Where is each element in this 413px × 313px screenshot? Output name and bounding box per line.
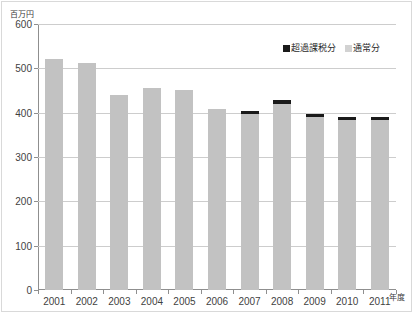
x-tick-mark xyxy=(168,290,169,294)
y-tick-label: 200 xyxy=(15,196,32,207)
x-tick-label: 2002 xyxy=(76,296,98,307)
bar-group xyxy=(208,109,226,290)
x-tick-label: 2005 xyxy=(173,296,195,307)
bar-segment-excess xyxy=(371,117,389,120)
legend-item: 超過課税分 xyxy=(283,44,336,53)
bar-segment-normal xyxy=(110,95,128,290)
bar-group xyxy=(371,117,389,290)
black-square-icon xyxy=(283,45,290,52)
bar-segment-excess xyxy=(273,100,291,104)
x-tick-mark xyxy=(136,290,137,294)
y-tick-label: 300 xyxy=(15,152,32,163)
bar-segment-normal xyxy=(241,114,259,290)
x-tick-mark xyxy=(331,290,332,294)
x-tick-label: 2007 xyxy=(238,296,260,307)
bar-chart: 百万円 6005004003002001000 2001200220032004… xyxy=(0,0,413,313)
x-tick-mark xyxy=(363,290,364,294)
bar-segment-normal xyxy=(45,59,63,290)
bar-group xyxy=(273,100,291,290)
bar-segment-normal xyxy=(78,63,96,290)
bar-group xyxy=(143,88,161,290)
bar-segment-normal xyxy=(143,88,161,290)
bar-group xyxy=(78,63,96,290)
bar-segment-normal xyxy=(371,120,389,290)
bar-segment-normal xyxy=(306,117,324,290)
bar-segment-normal xyxy=(208,109,226,290)
bar-segment-normal xyxy=(273,104,291,290)
x-tick-mark xyxy=(233,290,234,294)
y-axis-unit-label: 百万円 xyxy=(10,8,34,19)
x-tick-label: 2003 xyxy=(108,296,130,307)
gray-square-icon xyxy=(345,45,352,52)
bars-layer xyxy=(38,24,396,290)
y-tick-label: 600 xyxy=(15,19,32,30)
x-tick-mark xyxy=(201,290,202,294)
x-tick-mark xyxy=(38,290,39,294)
bar-segment-normal xyxy=(338,120,356,290)
bar-group xyxy=(338,117,356,290)
legend-label: 通常分 xyxy=(353,44,380,53)
x-tick-mark xyxy=(266,290,267,294)
x-tick-label: 2011 xyxy=(369,296,391,307)
legend-label: 超過課税分 xyxy=(291,44,336,53)
x-tick-mark xyxy=(103,290,104,294)
bar-group xyxy=(175,90,193,290)
bar-group xyxy=(241,111,259,290)
x-tick-label: 2009 xyxy=(304,296,326,307)
bar-group xyxy=(45,59,63,290)
y-tick-label: 500 xyxy=(15,63,32,74)
x-tick-mark xyxy=(298,290,299,294)
plot-area: 6005004003002001000 20012002200320042005… xyxy=(38,24,396,290)
legend-item: 通常分 xyxy=(345,44,380,53)
bar-segment-excess xyxy=(241,111,259,114)
x-tick-label: 2010 xyxy=(336,296,358,307)
x-tick-label: 2004 xyxy=(141,296,163,307)
x-tick-label: 2006 xyxy=(206,296,228,307)
bar-group xyxy=(110,95,128,290)
x-axis-title: 年度 xyxy=(389,291,405,302)
x-tick-label: 2008 xyxy=(271,296,293,307)
y-tick-label: 100 xyxy=(15,240,32,251)
bar-segment-normal xyxy=(175,90,193,290)
bar-segment-excess xyxy=(306,114,324,117)
x-tick-mark xyxy=(71,290,72,294)
x-tick-label: 2001 xyxy=(43,296,65,307)
bar-segment-excess xyxy=(338,117,356,120)
y-tick-label: 0 xyxy=(26,285,32,296)
y-tick-label: 400 xyxy=(15,107,32,118)
bar-group xyxy=(306,114,324,290)
chart-legend: 超過課税分通常分 xyxy=(283,44,380,53)
